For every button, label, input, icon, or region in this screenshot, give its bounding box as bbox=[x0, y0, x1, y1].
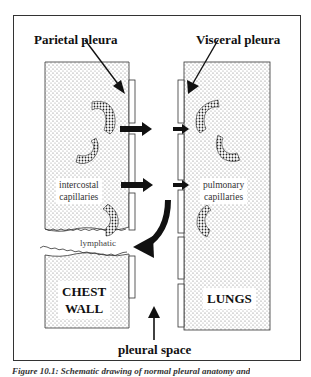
lungs-label: LUNGS bbox=[203, 288, 256, 309]
lymphatic-drainage-arrow bbox=[133, 200, 168, 258]
parietal-pleura-membrane bbox=[129, 80, 135, 298]
visceral-pleura-membrane bbox=[178, 80, 184, 327]
pulmonary-capillaries-label: pulmonary capillaries bbox=[200, 178, 247, 204]
figure-caption: Figure 10.1: Schematic drawing of normal… bbox=[12, 366, 250, 377]
pleura-diagram bbox=[0, 0, 311, 377]
lymphatic-label: lymphatic bbox=[80, 238, 116, 248]
visceral-pleura-label: Visceral pleura bbox=[196, 32, 280, 48]
intercostal-capillaries-label: intercostal capillaries bbox=[56, 178, 102, 204]
pleural-space-arrow bbox=[148, 306, 160, 340]
parietal-pleura-label: Parietal pleura bbox=[34, 32, 117, 48]
chest-wall-label: CHEST WALL bbox=[58, 281, 110, 319]
pleural-space-label: pleural space bbox=[118, 342, 191, 358]
